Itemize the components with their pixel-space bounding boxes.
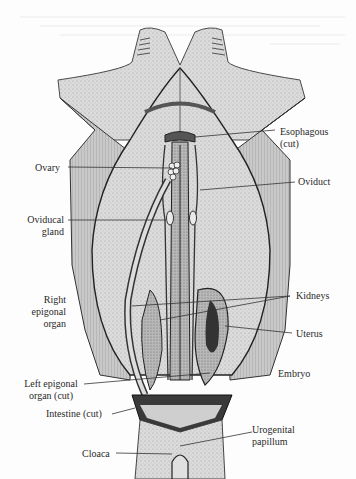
label-right-epigonal-organ: Right epigonal organ [22,294,66,330]
label-right-epigonal-line3: organ [22,318,66,330]
label-embryo: Embryo [278,368,310,380]
label-esophagous-line2: (cut) [280,138,328,150]
label-oviducal-gland-line2: gland [18,226,64,238]
label-left-epigonal-line2: organ (cut) [18,390,84,402]
label-urogenital-line1: Urogenital [252,424,295,436]
label-left-epigonal-line1: Left epigonal [18,378,84,390]
label-ovary: Ovary [35,162,60,174]
label-right-epigonal-line1: Right [22,294,66,306]
bleed-through-text [20,17,345,44]
label-oviducal-gland: Oviducal gland [18,214,64,238]
label-urogenital-line2: papillum [252,436,295,448]
label-esophagous: Esophagous (cut) [280,126,328,150]
label-left-epigonal-organ: Left epigonal organ (cut) [18,378,84,402]
label-oviducal-gland-line1: Oviducal [18,214,64,226]
label-right-epigonal-line2: epigonal [22,306,66,318]
label-intestine-cut: Intestine (cut) [46,408,102,420]
label-oviduct: Oviduct [298,176,330,188]
label-cloaca: Cloaca [82,448,110,460]
label-kidneys: Kidneys [296,290,329,302]
label-uterus: Uterus [296,328,323,340]
label-urogenital-papillum: Urogenital papillum [252,424,295,448]
cloaca-shape [172,455,188,479]
label-esophagous-line1: Esophagous [280,126,328,138]
